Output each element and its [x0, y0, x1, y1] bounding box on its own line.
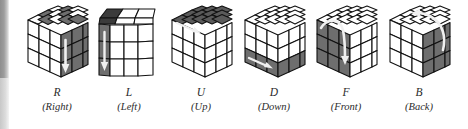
cube-letter-r: R	[18, 86, 96, 99]
cube-diagram-d: D (Down)	[235, 0, 313, 129]
cube-letter-l: L	[90, 86, 168, 99]
cube-letter-b: B	[380, 86, 458, 99]
cube-diagram-r: R (Right)	[18, 0, 96, 129]
cube-word-f: (Front)	[307, 100, 385, 113]
cube-illustration-l	[90, 4, 168, 84]
cube-caption-d: D (Down)	[235, 86, 313, 113]
cube-diagram-l: L (Left)	[90, 0, 168, 129]
cube-caption-f: F (Front)	[307, 86, 385, 113]
cube-diagram-u: U (Up)	[162, 0, 240, 129]
cube-caption-l: L (Left)	[90, 86, 168, 113]
cube-letter-f: F	[307, 86, 385, 99]
cube-illustration-r	[18, 4, 96, 84]
cube-word-u: (Up)	[162, 100, 240, 113]
cube-word-l: (Left)	[90, 100, 168, 113]
cube-illustration-d	[235, 4, 313, 84]
cube-illustration-u	[162, 4, 240, 84]
cube-caption-u: U (Up)	[162, 86, 240, 113]
cube-diagram-b: B (Back)	[380, 0, 458, 129]
cube-word-b: (Back)	[380, 100, 458, 113]
cube-word-d: (Down)	[235, 100, 313, 113]
cube-caption-r: R (Right)	[18, 86, 96, 113]
cube-letter-d: D	[235, 86, 313, 99]
cube-letter-u: U	[162, 86, 240, 99]
cube-illustration-f	[307, 4, 385, 84]
cube-word-r: (Right)	[18, 100, 96, 113]
cube-diagram-f: F (Front)	[307, 0, 385, 129]
cube-illustration-b	[380, 4, 458, 84]
cube-caption-b: B (Back)	[380, 86, 458, 113]
cube-notation-figure: R (Right)	[0, 0, 468, 129]
